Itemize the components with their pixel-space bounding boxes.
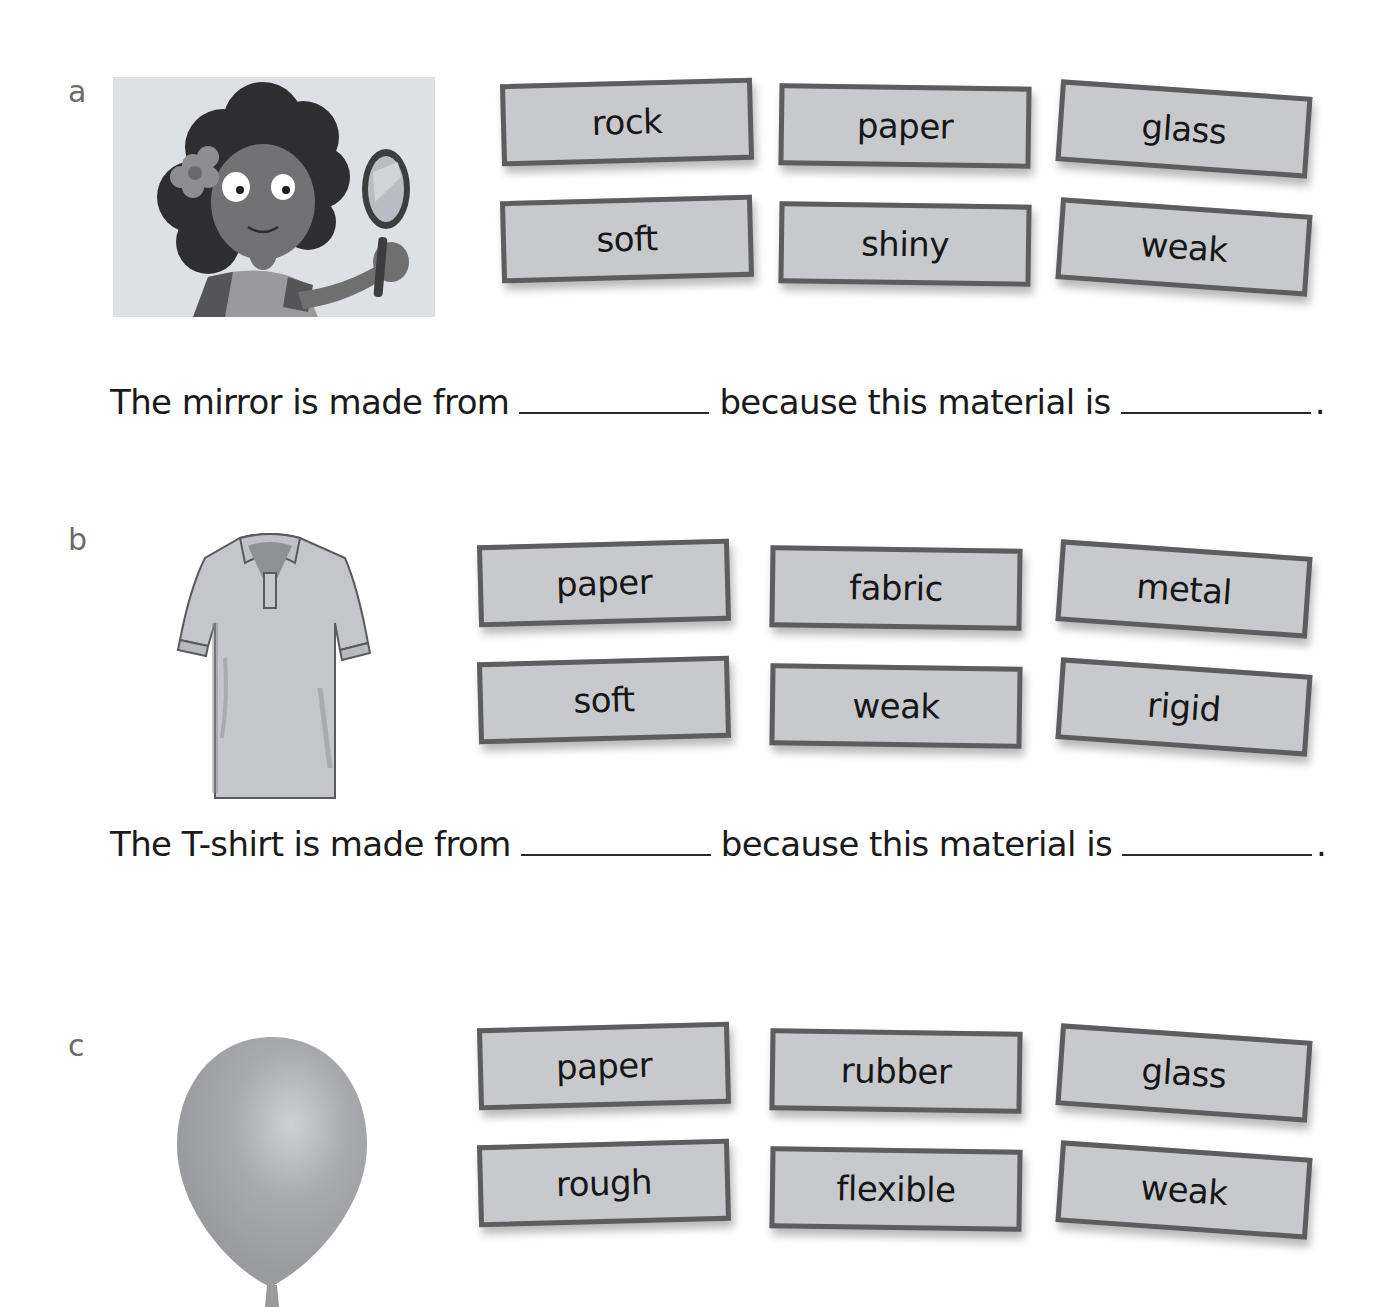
word-card-shiny[interactable]: shiny (778, 201, 1031, 287)
word-card-rigid[interactable]: rigid (1055, 657, 1312, 756)
t-shirt-icon (170, 528, 380, 808)
word-card-soft[interactable]: soft (477, 656, 731, 745)
sentence-b: The T-shirt is made from because this ma… (110, 824, 1326, 864)
word-card-paper[interactable]: paper (778, 83, 1031, 169)
word-card-weak[interactable]: weak (1055, 197, 1312, 296)
sentence-a-end: . (1315, 382, 1325, 422)
question-letter-b: b (68, 522, 87, 557)
word-card-paper[interactable]: paper (477, 539, 731, 628)
word-card-paper[interactable]: paper (477, 1022, 731, 1111)
blank-material-a[interactable] (519, 412, 709, 414)
sentence-a-part2: because this material is (719, 382, 1110, 422)
girl-mirror-icon (113, 77, 435, 317)
balloon-illustration (175, 1035, 370, 1307)
word-card-metal[interactable]: metal (1055, 539, 1312, 638)
word-card-glass[interactable]: glass (1055, 1023, 1312, 1122)
word-card-rough[interactable]: rough (477, 1139, 731, 1228)
word-card-rubber[interactable]: rubber (769, 1028, 1022, 1114)
sentence-b-end: . (1316, 824, 1326, 864)
sentence-b-part2: because this material is (721, 824, 1112, 864)
t-shirt-illustration (170, 528, 380, 808)
word-card-weak[interactable]: weak (769, 663, 1022, 749)
blank-property-b[interactable] (1122, 854, 1312, 856)
sentence-a: The mirror is made from because this mat… (110, 382, 1325, 422)
balloon-icon (175, 1035, 370, 1307)
girl-with-mirror-illustration (113, 77, 435, 317)
sentence-b-part1: The T-shirt is made from (110, 824, 511, 864)
word-card-fabric[interactable]: fabric (769, 545, 1022, 631)
sentence-a-part1: The mirror is made from (110, 382, 509, 422)
word-card-flexible[interactable]: flexible (769, 1146, 1022, 1232)
question-letter-a: a (68, 74, 86, 109)
blank-property-a[interactable] (1121, 412, 1311, 414)
blank-material-b[interactable] (521, 854, 711, 856)
word-card-soft[interactable]: soft (500, 195, 754, 284)
word-card-weak[interactable]: weak (1055, 1140, 1312, 1239)
word-card-glass[interactable]: glass (1055, 79, 1312, 178)
word-card-rock[interactable]: rock (500, 78, 754, 167)
question-letter-c: c (68, 1028, 85, 1063)
